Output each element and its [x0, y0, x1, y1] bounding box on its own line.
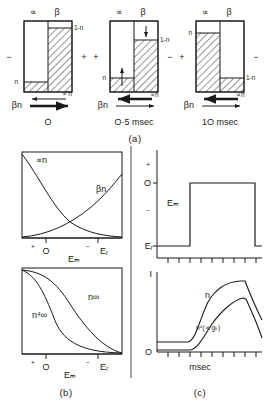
n-label: n	[188, 29, 192, 36]
n-label: n	[14, 78, 18, 85]
curve-voltage-step	[157, 183, 262, 246]
time-label: 1O msec	[202, 117, 239, 127]
panel-a: ∝ β 1-n n − + βn ∝'n O ∝ β 1-n n +	[6, 7, 258, 144]
beta-n-label: βn	[184, 100, 194, 110]
y-tick-er: Eᵣ	[145, 241, 153, 251]
panel-label-a: (a)	[128, 133, 141, 144]
curve-label-n: n	[205, 290, 210, 300]
beta-n-label: βn	[98, 100, 108, 110]
y-tick-zero: O	[144, 178, 151, 188]
y-tick-zero: O	[145, 347, 152, 357]
y-axis-em-label: Eₘ	[167, 198, 179, 208]
alpha-symbol: ∝	[202, 7, 208, 17]
diagram-t0: ∝ β 1-n n − + βn ∝'n O	[6, 7, 86, 127]
y-tick-minus: −	[146, 207, 150, 214]
curve-label-n4-gk: n⁴(∝ gₖ)	[196, 324, 220, 332]
beta-symbol: β	[226, 7, 231, 17]
n-label: n	[102, 74, 106, 81]
beta-symbol: β	[54, 7, 59, 17]
x-ticks	[168, 258, 256, 263]
curve-label-n-infinity: n∞	[88, 292, 99, 302]
x-tick-er: Eᵣ	[100, 362, 108, 372]
x-axis-em-label: Eₘ	[64, 370, 76, 380]
right-polarity: −	[253, 52, 258, 62]
x-tick-er: Eᵣ	[100, 246, 108, 256]
panel-label-c: (c)	[194, 387, 207, 398]
right-polarity: +	[81, 52, 86, 62]
alpha-n-label: ∝n	[150, 91, 159, 98]
chart-c-top: + O − Eᵣ Eₘ	[144, 150, 262, 263]
x-tick-plus: +	[31, 243, 35, 250]
chart-b-top: ∝n βn + O − Eᵣ Eₘ	[22, 152, 122, 264]
figure-svg: ∝ β 1-n n − + βn ∝'n O ∝ β 1-n n +	[0, 0, 271, 412]
chart-c-bottom: n n⁴(∝ gₖ) I O msec	[145, 269, 262, 372]
curve-label-n4-infinity: n⁴∞	[32, 310, 47, 320]
x-axis-em-label: Eₘ	[68, 254, 80, 264]
left-polarity: −	[6, 52, 11, 62]
alpha-symbol: ∝	[30, 7, 36, 17]
time-label: O	[44, 117, 51, 127]
left-polarity: +	[179, 52, 184, 62]
curve-beta-n	[22, 174, 122, 237]
one-minus-n-label: 1-n	[246, 74, 256, 81]
beta-n-label: βn	[12, 100, 22, 110]
x-tick-zero: O	[42, 362, 49, 372]
x-ticks	[168, 352, 256, 357]
panel-label-b: (b)	[59, 387, 72, 398]
curve-label-beta-n: βn	[96, 184, 106, 194]
chart-b-bottom: n∞ n⁴∞ + O − Eᵣ Eₘ	[22, 268, 122, 380]
one-minus-n-label: 1-n	[160, 36, 170, 43]
x-tick-minus: −	[86, 359, 90, 366]
x-tick-zero: O	[42, 246, 49, 256]
figure-root: ∝ β 1-n n − + βn ∝'n O ∝ β 1-n n +	[0, 0, 271, 412]
curve-label-alpha-n: ∝n	[36, 155, 47, 165]
x-axis-label-msec: msec	[189, 362, 211, 372]
y-tick-i: I	[149, 269, 152, 279]
diagram-t05: ∝ β 1-n n + − βn ∝n O·5 msec	[93, 7, 172, 127]
left-polarity: +	[93, 52, 98, 62]
beta-symbol: β	[140, 7, 145, 17]
y-tick-plus: +	[146, 161, 150, 168]
x-tick-plus: +	[31, 359, 35, 366]
alpha-n-label: ∝n	[236, 91, 245, 98]
alpha-n-label: ∝'n	[62, 90, 72, 97]
x-tick-minus: −	[86, 243, 90, 250]
right-polarity: −	[167, 52, 172, 62]
one-minus-n-label: 1-n	[74, 24, 84, 31]
diagram-t10: ∝ β 1-n n + − βn ∝n 1O msec	[179, 7, 258, 127]
alpha-symbol: ∝	[116, 7, 122, 17]
curve-alpha-n	[22, 154, 122, 237]
time-label: O·5 msec	[114, 117, 154, 127]
